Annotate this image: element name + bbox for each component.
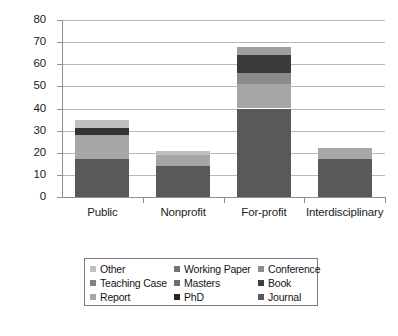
legend-swatch-icon — [90, 280, 96, 286]
bar-for-profit — [237, 20, 291, 197]
category-label: For-profit — [224, 206, 305, 219]
legend-swatch-icon — [174, 266, 180, 272]
legend-swatch-icon — [174, 280, 180, 286]
bar-segment-report — [156, 155, 210, 166]
legend-label: Book — [268, 278, 291, 289]
legend-swatch-icon — [90, 294, 96, 300]
legend-swatch-icon — [258, 280, 264, 286]
category-label: Public — [62, 206, 143, 219]
legend-label: Conference — [268, 264, 320, 275]
category-label: Interdisciplinary — [304, 206, 385, 219]
bar-segment-masters — [75, 128, 129, 135]
bar-segment-journal — [237, 109, 291, 198]
bar-segment-book — [237, 55, 291, 73]
bar-segment-report — [318, 148, 372, 159]
legend-swatch-icon — [90, 266, 96, 272]
legend-label: Teaching Case — [100, 278, 167, 289]
y-axis-tick-label: 60 — [16, 58, 46, 70]
legend: OtherWorking PaperConferenceTeaching Cas… — [84, 258, 318, 306]
legend-label: Masters — [184, 278, 220, 289]
stacked-bar-chart: 80706050403020100 PublicNonprofitFor-pro… — [0, 0, 398, 336]
bar-segment-report — [75, 135, 129, 159]
x-tick — [143, 197, 144, 203]
legend-swatch-icon — [174, 294, 180, 300]
legend-label: Other — [100, 264, 125, 275]
legend-swatch-icon — [258, 294, 264, 300]
plot-area: 80706050403020100 PublicNonprofitFor-pro… — [0, 0, 398, 230]
x-axis-line — [57, 197, 385, 198]
bar-segment-journal — [75, 159, 129, 197]
legend-label: PhD — [184, 292, 204, 303]
x-tick — [224, 197, 225, 203]
legend-item[interactable]: Journal — [258, 292, 324, 303]
bar-public — [75, 20, 129, 197]
legend-item[interactable]: Book — [258, 278, 324, 289]
y-axis-tick-label: 30 — [16, 125, 46, 137]
bar-segment-report — [237, 84, 291, 108]
bar-segment-other — [156, 151, 210, 155]
legend-item[interactable]: PhD — [174, 292, 258, 303]
category-label: Nonprofit — [143, 206, 224, 219]
y-axis-tick-label: 70 — [16, 36, 46, 48]
y-axis-tick-label: 40 — [16, 103, 46, 115]
y-axis-tick-label: 50 — [16, 80, 46, 92]
legend-label: Working Paper — [184, 264, 251, 275]
legend-item[interactable]: Report — [90, 292, 174, 303]
x-tick — [385, 197, 386, 203]
x-tick — [304, 197, 305, 203]
legend-item[interactable]: Teaching Case — [90, 278, 174, 289]
legend-item[interactable]: Working Paper — [174, 264, 258, 275]
bar-nonprofit — [156, 20, 210, 197]
bars-container — [62, 20, 385, 197]
legend-item[interactable]: Conference — [258, 264, 324, 275]
legend-item[interactable]: Other — [90, 264, 174, 275]
legend-label: Journal — [268, 292, 301, 303]
bar-segment-other — [75, 120, 129, 129]
legend-label: Report — [100, 292, 130, 303]
y-axis-tick-label: 80 — [16, 14, 46, 26]
legend-item[interactable]: Masters — [174, 278, 258, 289]
y-axis-tick-label: 0 — [16, 191, 46, 203]
bar-segment-other — [237, 47, 291, 56]
legend-items: OtherWorking PaperConferenceTeaching Cas… — [85, 262, 317, 304]
bar-segment-journal — [156, 166, 210, 197]
bar-segment-journal — [318, 159, 372, 197]
bar-segment-masters — [237, 73, 291, 84]
legend-swatch-icon — [258, 266, 264, 272]
y-axis-tick-label: 10 — [16, 169, 46, 181]
y-axis-tick-label: 20 — [16, 147, 46, 159]
bar-interdisciplinary — [318, 20, 372, 197]
